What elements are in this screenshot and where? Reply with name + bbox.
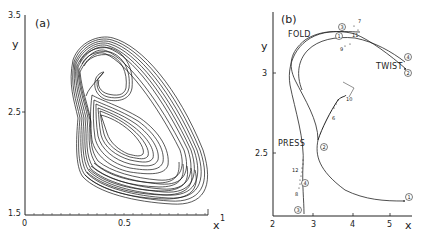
annotation-press: PRESS — [278, 139, 305, 148]
panel-b-xlabel: x — [405, 219, 412, 232]
panel-b-label: (b) — [281, 13, 297, 26]
attractor-curves — [71, 37, 207, 204]
step-10: 10 — [346, 96, 352, 102]
panel-a-ylabel: y — [12, 38, 19, 51]
step-7: 7 — [358, 18, 361, 24]
panel-a-ytick-2.5: 2.5 — [8, 108, 21, 117]
step-12: 12 — [292, 167, 298, 173]
cp-label-4b: 4 — [304, 180, 307, 186]
cp-label-2: 2 — [407, 70, 410, 76]
panel-a-ytick-3.5: 3.5 — [8, 11, 21, 20]
cp-label-2b: 2 — [323, 144, 326, 150]
panel-b: 2 3 4 5 x 3 2.5 y (b) FOLD TWIST PRESS — [255, 12, 413, 232]
curve-outer — [291, 32, 406, 201]
circled-points — [295, 24, 413, 214]
cp-label-1b: 1 — [408, 194, 411, 200]
step-6: 6 — [332, 115, 335, 121]
panel-a-xtick-0: 0 — [22, 219, 27, 228]
cp-label-3: 3 — [341, 24, 344, 30]
panel-b-ylabel: y — [261, 40, 268, 53]
cp-label-1: 1 — [338, 33, 341, 39]
cp-label-3b: 3 — [297, 207, 300, 213]
panel-a: 3.5 2.5 1.5 0 0.5 y (a) — [8, 11, 208, 228]
annotation-twist: TWIST — [375, 62, 403, 71]
panel-a-label: (a) — [35, 17, 50, 30]
step-11: 11 — [352, 32, 358, 38]
cp-label-4: 4 — [407, 54, 410, 60]
panel-b-xtick-3: 3 — [311, 220, 316, 229]
panel-a-xtick-0.5: 0.5 — [118, 219, 131, 228]
panel-a-ytick-1.5: 1.5 — [8, 209, 21, 218]
step-8: 8 — [295, 191, 298, 197]
panel-b-xtick-2: 2 — [270, 220, 275, 229]
panel-b-curves — [289, 32, 406, 214]
step-numbers: 7 11 9 10 6 12 8 — [292, 18, 361, 197]
panel-b-ytick-3: 3 — [262, 69, 267, 78]
annotation-fold: FOLD — [288, 30, 311, 39]
curve-transient-tail — [343, 82, 354, 97]
panel-a-xlabel: x — [213, 219, 220, 232]
panel-b-xtick-4: 4 — [350, 220, 355, 229]
panel-b-ytick-2.5: 2.5 — [255, 149, 268, 158]
step-9: 9 — [340, 46, 343, 52]
panel-b-xtick-5: 5 — [387, 220, 392, 229]
panel-a-xtick-1: 1 — [220, 214, 225, 223]
figure: 3.5 2.5 1.5 0 0.5 y (a) — [0, 0, 421, 235]
